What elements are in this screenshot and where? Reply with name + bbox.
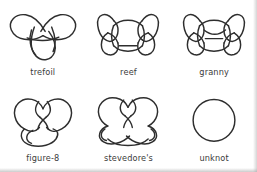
knot-label-stevedores: stevedore's: [104, 153, 153, 163]
knot-label-granny: granny: [199, 67, 229, 77]
reef-diagram: [92, 4, 164, 66]
granny-diagram: [178, 4, 250, 66]
stevedores-diagram: [92, 90, 164, 152]
knot-label-trefoil: trefoil: [30, 67, 55, 77]
knot-label-figure8: figure-8: [26, 153, 59, 163]
unknot-diagram: [178, 90, 250, 152]
trefoil-diagram: [7, 4, 79, 66]
knot-label-reef: reef: [120, 67, 137, 77]
knot-label-unknot: unknot: [199, 153, 228, 163]
knot-cell-granny: granny: [171, 0, 257, 86]
knot-grid: trefoil: [0, 0, 257, 172]
figure-8-diagram: [7, 90, 79, 152]
knot-cell-stevedores: stevedore's: [86, 86, 172, 172]
knot-cell-trefoil: trefoil: [0, 0, 86, 86]
knot-cell-unknot: unknot: [171, 86, 257, 172]
knot-cell-figure8: figure-8: [0, 86, 86, 172]
knot-figure: trefoil: [0, 0, 257, 172]
knot-cell-reef: reef: [86, 0, 172, 86]
